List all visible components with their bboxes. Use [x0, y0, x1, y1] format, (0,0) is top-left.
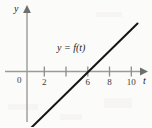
function-annotation-label: y = f(t) — [57, 43, 85, 53]
x-axis-label: t — [143, 76, 146, 86]
x-tick-label-6: 6 — [83, 78, 93, 87]
plot-canvas — [0, 0, 152, 127]
x-tick-label-2: 2 — [39, 78, 49, 87]
function-line — [32, 24, 138, 128]
graph-figure: y t 0 2 6 8 10 y = f(t) — [0, 0, 152, 127]
origin-label: 0 — [17, 76, 22, 85]
y-axis-arrowhead — [23, 5, 31, 13]
x-tick-label-8: 8 — [105, 78, 115, 87]
y-axis-label: y — [14, 4, 18, 14]
x-tick-label-10: 10 — [124, 78, 138, 87]
